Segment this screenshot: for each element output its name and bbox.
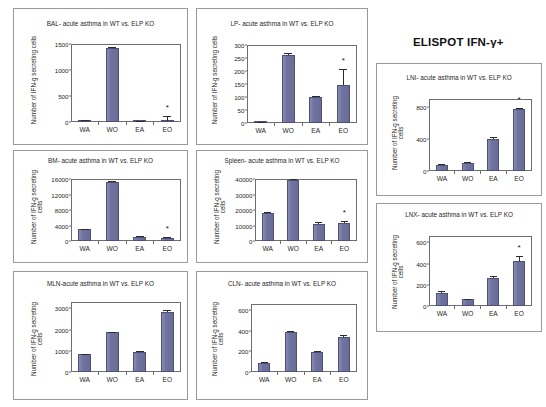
y-axis-line bbox=[251, 304, 252, 372]
x-tick-label-ea: EA bbox=[135, 126, 144, 133]
plot-area-bal: 050010001500* bbox=[71, 44, 181, 122]
x-tick-label-eo: EO bbox=[514, 175, 524, 182]
x-tick-label-wa: WA bbox=[263, 245, 273, 252]
y-axis-line bbox=[255, 179, 256, 241]
y-axis-label-bal: Number of IFN-g secreting cells bbox=[30, 21, 37, 139]
bar-spleen-eo bbox=[338, 223, 350, 241]
x-tick-label-eo: EO bbox=[514, 310, 524, 317]
chart-panel-cln: CLN- acute asthma in WT vs. ELP KONumber… bbox=[196, 271, 368, 400]
error-bar-cap bbox=[136, 236, 144, 237]
y-tick-label: 30000 bbox=[235, 191, 252, 198]
y-tick-label: 12000 bbox=[51, 191, 68, 198]
x-tick-mark bbox=[302, 123, 303, 126]
y-tick-mark bbox=[69, 372, 72, 373]
error-bar-cap bbox=[438, 291, 445, 292]
y-tick-mark bbox=[245, 110, 248, 111]
y-tick-mark bbox=[69, 210, 72, 211]
error-bar-cap bbox=[490, 276, 497, 277]
plot-area-lnx: 0200400600* bbox=[429, 236, 532, 306]
plot-area-bm: 0400080001200016000* bbox=[71, 179, 181, 241]
error-bar-cap bbox=[290, 179, 297, 180]
error-bar-cap bbox=[490, 137, 497, 138]
x-tick-mark bbox=[153, 241, 154, 244]
y-tick-label: 40000 bbox=[235, 176, 252, 183]
x-tick-mark bbox=[98, 372, 99, 375]
x-tick-mark bbox=[126, 241, 127, 244]
significance-star: * bbox=[518, 245, 521, 251]
y-tick-mark bbox=[69, 308, 72, 309]
bar-lnx-eo bbox=[513, 261, 525, 306]
error-bar bbox=[343, 69, 344, 84]
bar-mln-eo bbox=[161, 312, 174, 372]
y-tick-mark bbox=[245, 84, 248, 85]
chart-panel-mln: MLN-acute asthma in WT vs. ELP KONumber … bbox=[13, 271, 188, 400]
x-tick-mark bbox=[277, 372, 278, 375]
x-tick-mark bbox=[280, 241, 281, 244]
significance-star: * bbox=[342, 58, 345, 64]
y-tick-label: 100 bbox=[234, 94, 244, 101]
y-tick-label: 400 bbox=[238, 327, 248, 334]
chart-panel-bm: BM- acute asthma in WT vs. ELP KONumber … bbox=[13, 150, 188, 263]
x-tick-label-eo: EO bbox=[162, 245, 172, 252]
plot-area-spleen: 010000200003000040000* bbox=[255, 179, 357, 241]
y-tick-label: 500 bbox=[58, 93, 68, 100]
x-tick-label-ea: EA bbox=[314, 245, 323, 252]
y-axis-line bbox=[429, 236, 430, 306]
y-tick-mark bbox=[427, 242, 430, 243]
x-tick-label-wo: WO bbox=[288, 245, 299, 252]
y-tick-label: 1000 bbox=[55, 347, 69, 354]
error-bar-cap bbox=[81, 120, 89, 121]
y-tick-mark bbox=[69, 44, 72, 45]
bar-lni-wa bbox=[436, 165, 448, 171]
chart-panel-bal: BAL- acute asthma in WT vs. ELP KONumber… bbox=[13, 8, 188, 145]
y-axis-line bbox=[71, 179, 72, 241]
bar-lnx-ea bbox=[487, 278, 499, 306]
bar-lnx-wa bbox=[436, 293, 448, 306]
x-tick-mark bbox=[454, 171, 455, 174]
x-tick-label-wo: WO bbox=[462, 175, 473, 182]
x-tick-label-wa: WA bbox=[437, 175, 447, 182]
error-bar-cap bbox=[257, 122, 265, 123]
chart-title-lnx: LNX- acute asthma in WT vs. ELP KO bbox=[377, 211, 541, 218]
y-tick-label: 4000 bbox=[55, 222, 69, 229]
x-tick-label-wa: WA bbox=[80, 376, 90, 383]
x-tick-label-wa: WA bbox=[259, 376, 269, 383]
y-tick-mark bbox=[253, 241, 256, 242]
y-tick-mark bbox=[69, 241, 72, 242]
y-tick-mark bbox=[69, 179, 72, 180]
x-tick-label-wa: WA bbox=[256, 127, 266, 134]
bar-lp-eo bbox=[337, 85, 350, 123]
x-tick-label-wo: WO bbox=[283, 127, 294, 134]
bar-bal-wo bbox=[106, 48, 119, 122]
y-tick-mark bbox=[69, 350, 72, 351]
y-axis-label-cln: Number of IFN-g secretingcells bbox=[211, 286, 224, 392]
bar-mln-wo bbox=[106, 332, 119, 372]
y-tick-label: 400 bbox=[416, 260, 426, 267]
y-tick-mark bbox=[69, 70, 72, 71]
y-tick-mark bbox=[245, 58, 248, 59]
x-tick-label-wo: WO bbox=[462, 310, 473, 317]
chart-panel-spleen: Spleen- acute asthma in WT vs. ELP KONum… bbox=[196, 150, 368, 263]
y-tick-mark bbox=[245, 97, 248, 98]
bar-spleen-wa bbox=[262, 213, 274, 241]
error-bar-cap bbox=[81, 354, 89, 355]
y-tick-mark bbox=[245, 45, 248, 46]
y-axis-label-mln: Number of IFN-g secretingcells bbox=[30, 286, 43, 392]
y-tick-label: 200 bbox=[416, 281, 426, 288]
y-tick-mark bbox=[249, 330, 252, 331]
y-tick-mark bbox=[69, 329, 72, 330]
bar-lp-ea bbox=[309, 97, 322, 123]
y-tick-mark bbox=[427, 171, 430, 172]
y-tick-label: 50 bbox=[238, 107, 245, 114]
chart-panel-lnx: LNX- acute asthma in WT vs. ELP KONumber… bbox=[376, 203, 542, 332]
x-tick-label-ea: EA bbox=[313, 376, 322, 383]
error-bar-cap bbox=[108, 181, 116, 182]
bar-cln-eo bbox=[338, 337, 350, 372]
error-bar-cap bbox=[516, 108, 523, 109]
error-bar-cap bbox=[264, 212, 271, 213]
x-tick-label-ea: EA bbox=[489, 310, 498, 317]
y-tick-mark bbox=[427, 107, 430, 108]
bar-bm-ea bbox=[133, 237, 146, 241]
x-tick-label-eo: EO bbox=[339, 376, 349, 383]
y-tick-label: 1500 bbox=[55, 41, 69, 48]
